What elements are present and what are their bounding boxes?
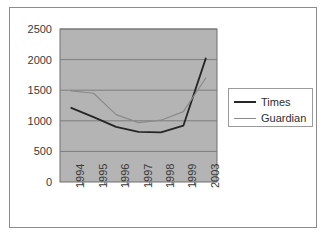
legend: TimesGuardian [228,88,313,127]
legend-item-guardian[interactable]: Guardian [234,111,306,125]
y-tick-label: 0 [12,177,52,188]
y-tick-label: 500 [12,146,52,157]
plot-area [60,29,217,182]
x-tick-label: 1994 [75,164,86,188]
y-tick-label: 1000 [12,116,52,127]
x-tick-label: 1995 [98,164,109,188]
legend-swatch-icon [234,118,256,119]
x-tick-label: 1996 [120,164,131,188]
y-tick-label: 2000 [12,55,52,66]
x-tick-label: 1997 [143,164,154,188]
legend-label: Times [261,97,291,108]
x-tick-label: 1998 [165,164,176,188]
y-tick-label: 1500 [12,85,52,96]
x-tick-label: 2003 [210,164,221,188]
x-tick-label: 1999 [187,164,198,188]
y-tick-label: 2500 [12,24,52,35]
legend-swatch-icon [234,101,256,103]
legend-item-times[interactable]: Times [234,95,291,109]
legend-label: Guardian [261,113,306,124]
